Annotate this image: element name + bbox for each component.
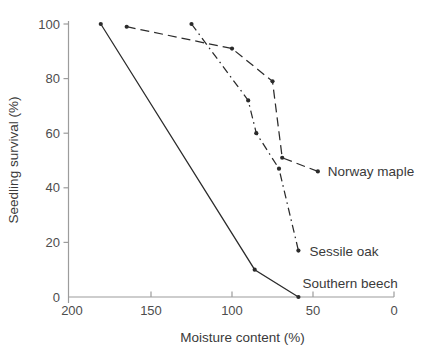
series-marker-southern-beech — [296, 295, 300, 299]
x-tick-label: 100 — [221, 303, 243, 318]
series-marker-sessile-oak — [254, 131, 258, 135]
chart-plot-area: 020406080100200150100500Southern beechNo… — [0, 0, 423, 364]
x-axis-title: Moisture content (%) — [130, 330, 355, 345]
series-marker-norway-maple — [316, 169, 320, 173]
x-tick-label: 150 — [140, 303, 162, 318]
y-tick-label: 60 — [46, 126, 60, 141]
series-line-sessile-oak — [192, 24, 299, 251]
series-marker-norway-maple — [125, 25, 129, 29]
series-label-sessile-oak: Sessile oak — [309, 244, 378, 259]
series-label-norway-maple: Norway maple — [328, 164, 414, 179]
series-line-norway-maple — [127, 27, 318, 172]
series-marker-southern-beech — [99, 22, 103, 26]
series-marker-sessile-oak — [296, 248, 300, 252]
series-marker-norway-maple — [270, 79, 274, 83]
chart-figure: 020406080100200150100500Southern beechNo… — [0, 0, 423, 364]
series-label-southern-beech: Southern beech — [302, 276, 397, 291]
series-marker-sessile-oak — [246, 98, 250, 102]
x-tick-label: 200 — [61, 303, 83, 318]
series-marker-sessile-oak — [189, 22, 193, 26]
y-tick-label: 0 — [53, 290, 60, 305]
series-line-southern-beech — [101, 24, 299, 297]
y-axis-title: Seedling survival (%) — [6, 97, 21, 224]
series-marker-southern-beech — [253, 268, 257, 272]
series-marker-sessile-oak — [277, 167, 281, 171]
y-tick-label: 80 — [46, 71, 60, 86]
y-tick-label: 40 — [46, 180, 60, 195]
y-tick-label: 100 — [38, 17, 60, 32]
y-tick-label: 20 — [46, 235, 60, 250]
x-tick-label: 0 — [390, 303, 397, 318]
x-tick-label: 50 — [306, 303, 320, 318]
series-marker-norway-maple — [280, 156, 284, 160]
series-marker-norway-maple — [230, 46, 234, 50]
